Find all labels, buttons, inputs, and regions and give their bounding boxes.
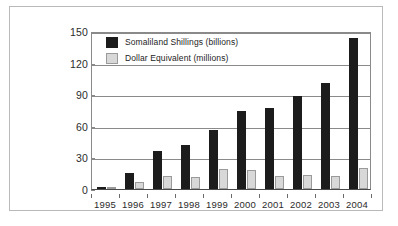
bar [293, 96, 302, 189]
x-tick-label: 2001 [259, 199, 287, 210]
x-tick-mark [315, 194, 316, 198]
x-tick-mark [287, 194, 288, 198]
x-axis: 1995199619971998199920002001200220032004 [91, 194, 371, 210]
bar [97, 187, 106, 189]
x-tick-mark [371, 194, 372, 198]
y-tick-label: 60 [62, 122, 88, 132]
y-tick-mark [91, 190, 95, 191]
y-tick-mark [91, 64, 95, 65]
bar [359, 168, 368, 189]
legend-swatch-icon [106, 37, 118, 48]
bar [153, 151, 162, 189]
bar [107, 187, 116, 189]
y-tick-mark [91, 127, 95, 128]
y-tick-label: 30 [62, 153, 88, 163]
bar [237, 111, 246, 189]
x-tick-mark [343, 194, 344, 198]
legend-item: Somaliland Shillings (billions) [106, 36, 256, 48]
x-tick-label: 1997 [147, 199, 175, 210]
y-tick-label: 120 [62, 59, 88, 69]
bar [265, 108, 274, 189]
y-tick-label: 90 [62, 90, 88, 100]
legend-label: Dollar Equivalent (millions) [125, 53, 228, 63]
bar [275, 176, 284, 189]
bar [191, 177, 200, 189]
bar [331, 176, 340, 189]
bar [125, 173, 134, 189]
x-tick-mark [175, 194, 176, 198]
chart-legend: Somaliland Shillings (billions)Dollar Eq… [106, 36, 256, 68]
bar [219, 169, 228, 189]
y-tick-mark [91, 95, 95, 96]
bar [303, 175, 312, 189]
y-tick-mark [91, 158, 95, 159]
x-tick-mark [231, 194, 232, 198]
x-tick-label: 1998 [175, 199, 203, 210]
bar [181, 145, 190, 189]
bar [247, 170, 256, 189]
x-tick-label: 2000 [231, 199, 259, 210]
x-tick-mark [91, 194, 92, 198]
chart-page: 0306090120150 19951996199719981999200020… [0, 0, 398, 226]
y-axis: 0306090120150 [60, 32, 88, 190]
x-tick-label: 1996 [119, 199, 147, 210]
y-tick-label: 150 [62, 27, 88, 37]
legend-item: Dollar Equivalent (millions) [106, 52, 256, 64]
legend-label: Somaliland Shillings (billions) [125, 37, 238, 47]
y-tick-mark [91, 32, 95, 33]
bar [163, 176, 172, 189]
x-tick-label: 1995 [91, 199, 119, 210]
x-tick-mark [119, 194, 120, 198]
bar [209, 130, 218, 189]
y-tick-label: 0 [62, 185, 88, 195]
gridline [92, 33, 370, 34]
x-tick-label: 2003 [315, 199, 343, 210]
x-tick-mark [147, 194, 148, 198]
x-tick-label: 1999 [203, 199, 231, 210]
bar [349, 38, 358, 189]
x-tick-label: 2004 [343, 199, 371, 210]
bar [135, 182, 144, 189]
x-tick-mark [203, 194, 204, 198]
bar [321, 83, 330, 189]
figure-frame: 0306090120150 19951996199719981999200020… [9, 6, 383, 211]
legend-swatch-icon [106, 53, 118, 64]
x-tick-mark [259, 194, 260, 198]
x-tick-label: 2002 [287, 199, 315, 210]
